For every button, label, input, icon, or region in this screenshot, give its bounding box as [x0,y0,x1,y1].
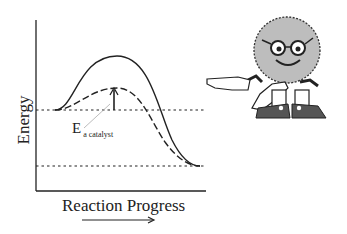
cartoon-character [207,17,326,118]
y-axis-label: Energy [14,90,34,150]
uncatalyzed-curve [55,56,200,166]
activation-energy-label: Ea catalyst [72,120,113,139]
x-axis-label: Reaction Progress [62,196,185,216]
ea-main: E [72,120,81,136]
ea-subscript: a catalyst [83,130,113,139]
